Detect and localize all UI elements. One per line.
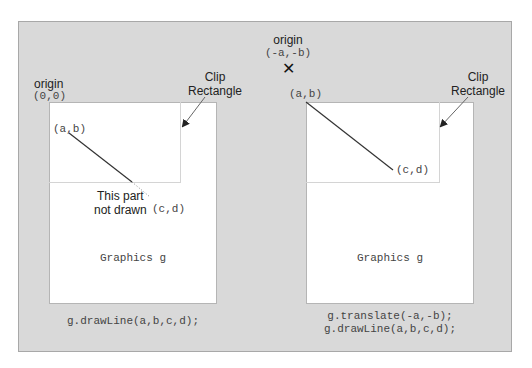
left-undrawn-line [132, 182, 150, 197]
left-drawn-line [69, 133, 132, 182]
right-clip-arrow [441, 97, 468, 126]
left-clip-arrow [183, 97, 205, 126]
diagram-lines [0, 0, 532, 368]
right-drawn-line [306, 102, 393, 170]
